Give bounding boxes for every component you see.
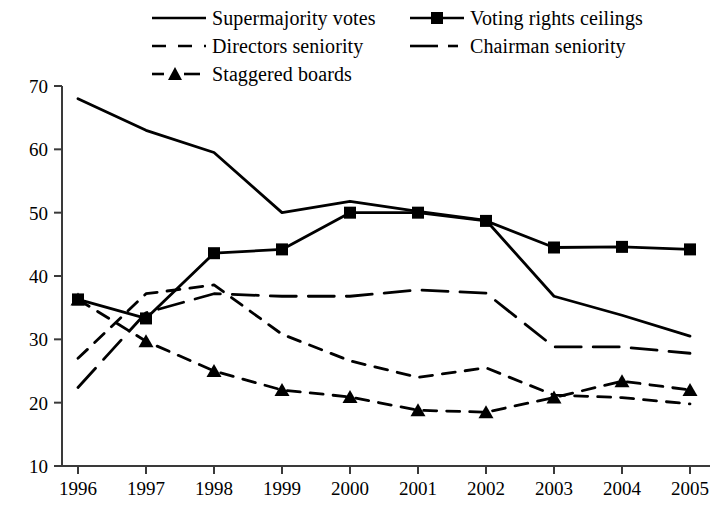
x-axis-tick-label: 2001 <box>399 478 437 499</box>
chart-figure: Supermajority votes Voting rights ceilin… <box>0 0 718 505</box>
data-point-marker-square <box>412 207 424 219</box>
x-axis-tick-label: 2000 <box>331 478 369 499</box>
series-line-voting-rights-ceilings <box>78 213 690 319</box>
x-axis-tick-label: 1997 <box>127 478 165 499</box>
y-axis-tick-label: 30 <box>29 329 48 350</box>
y-axis-tick-label: 40 <box>29 266 48 287</box>
x-axis-tick-label: 2003 <box>535 478 573 499</box>
y-axis-tick-label: 60 <box>29 139 48 160</box>
y-axis-tick-label: 50 <box>29 203 48 224</box>
x-axis-tick-label: 1999 <box>263 478 301 499</box>
data-point-marker-square <box>480 215 492 227</box>
x-axis-tick-label: 2002 <box>467 478 505 499</box>
data-point-marker-square <box>548 242 560 254</box>
x-axis-tick-label: 2004 <box>603 478 642 499</box>
x-axis-tick-label: 1996 <box>59 478 97 499</box>
x-axis-tick-label: 2005 <box>671 478 709 499</box>
series-line-chairman-seniority <box>78 290 690 388</box>
y-axis-tick-label: 20 <box>29 393 48 414</box>
series-line-staggered-boards <box>78 299 690 412</box>
y-axis-tick-label: 70 <box>29 76 48 97</box>
series-line-supermajority-votes <box>78 99 690 337</box>
chart-plot-area: 1020304050607019961997199819992000200120… <box>0 0 718 505</box>
y-axis-tick-label: 10 <box>29 456 48 477</box>
data-point-marker-square <box>276 243 288 255</box>
data-point-marker-square <box>616 241 628 253</box>
data-point-marker-square <box>344 207 356 219</box>
data-point-marker-square <box>684 243 696 255</box>
data-point-marker-square <box>208 247 220 259</box>
series-line-directors-seniority <box>78 285 690 404</box>
data-point-marker-triangle <box>139 334 154 347</box>
data-point-marker-triangle <box>207 364 222 377</box>
x-axis-tick-label: 1998 <box>195 478 233 499</box>
